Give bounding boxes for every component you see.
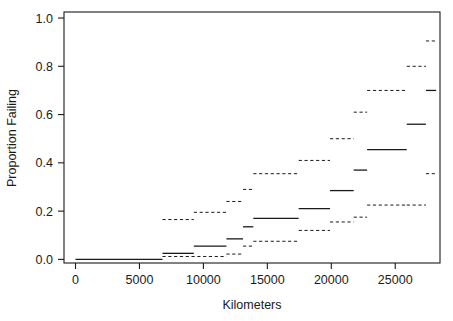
y-tick-label: 1.0 bbox=[36, 12, 53, 26]
y-tick-label: 0.2 bbox=[36, 205, 53, 219]
plot-canvas: 0500010000150002000025000 0.00.20.40.60.… bbox=[0, 0, 453, 321]
x-tick-label: 0 bbox=[72, 273, 79, 287]
x-tick-label: 15000 bbox=[250, 273, 285, 287]
y-axis-title: Proportion Failing bbox=[5, 89, 19, 187]
y-tick-label: 0.4 bbox=[36, 156, 53, 170]
y-tick-label: 0.6 bbox=[36, 108, 53, 122]
x-tick-label: 25000 bbox=[378, 273, 413, 287]
chart-figure: 0500010000150002000025000 0.00.20.40.60.… bbox=[0, 0, 453, 321]
x-tick-label: 20000 bbox=[314, 273, 349, 287]
x-tick-label: 10000 bbox=[186, 273, 221, 287]
x-tick-label: 5000 bbox=[126, 273, 154, 287]
x-axis-title: Kilometers bbox=[222, 298, 281, 312]
y-tick-label: 0.8 bbox=[36, 60, 53, 74]
y-tick-label: 0.0 bbox=[36, 253, 53, 267]
